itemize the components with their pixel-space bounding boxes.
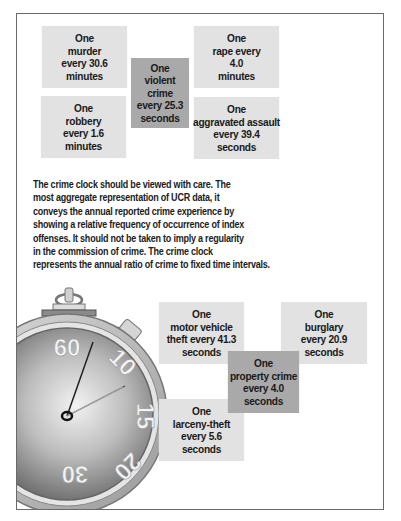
- murder-line-1: One: [75, 32, 94, 45]
- larceny-line-2: larceny-theft: [173, 418, 230, 431]
- robbery-line-2: robbery: [66, 115, 102, 128]
- stopwatch-icon: 60 10 15 20 30: [16, 286, 177, 510]
- robbery-box: One robbery every 1.6 minutes: [41, 96, 126, 158]
- violent-line-4: every 25.3: [137, 99, 183, 112]
- property-line-4: seconds: [244, 395, 283, 408]
- svg-text:60: 60: [54, 334, 81, 361]
- property-crime-box: One property crime every 4.0 seconds: [228, 351, 299, 413]
- desc-line-5: offenses. It should not be taken to impl…: [33, 232, 321, 245]
- robbery-line-4: minutes: [65, 140, 102, 153]
- larceny-line-4: seconds: [182, 443, 221, 456]
- property-line-3: every 4.0: [243, 382, 284, 395]
- violent-line-2: violent: [145, 74, 176, 87]
- property-line-2: property crime: [230, 370, 297, 383]
- murder-line-4: minutes: [66, 70, 103, 83]
- crime-clock-frame: One murder every 30.6 minutes One robber…: [16, 13, 384, 510]
- murder-line-3: every 30.6: [61, 57, 107, 70]
- larceny-line-3: every 5.6: [181, 430, 222, 443]
- assault-line-2: aggravated assault: [193, 116, 280, 129]
- desc-line-3: conveys the annual reported crime experi…: [33, 205, 321, 218]
- robbery-line-3: every 1.6: [63, 127, 104, 140]
- burglary-line-3: every 20.9: [301, 333, 347, 346]
- murder-line-2: murder: [68, 45, 101, 58]
- assault-line-4: seconds: [217, 141, 256, 154]
- svg-text:15: 15: [132, 403, 159, 430]
- larceny-line-1: One: [192, 405, 211, 418]
- rape-line-4: minutes: [218, 70, 255, 83]
- burglary-line-1: One: [315, 308, 334, 321]
- murder-box: One murder every 30.6 minutes: [42, 26, 127, 88]
- mvt-line-1: One: [192, 308, 211, 321]
- assault-line-3: every 39.4: [213, 128, 259, 141]
- violent-line-3: crime: [147, 87, 173, 100]
- property-line-1: One: [254, 357, 273, 370]
- desc-line-1: The crime clock should be viewed with ca…: [33, 178, 321, 191]
- svg-text:30: 30: [62, 461, 89, 488]
- rape-line-3: 4.0: [230, 57, 243, 70]
- mvt-line-3: theft every 41.3: [167, 333, 236, 346]
- rape-box: One rape every 4.0 minutes: [194, 26, 279, 88]
- desc-line-7: represents the annual ratio of crime to …: [33, 258, 321, 271]
- violent-crime-box: One violent crime every 25.3 seconds: [131, 58, 189, 128]
- robbery-line-1: One: [74, 102, 93, 115]
- rape-line-2: rape every: [212, 45, 260, 58]
- violent-line-1: One: [151, 62, 170, 75]
- rape-line-1: One: [227, 32, 246, 45]
- crime-clock-description: The crime clock should be viewed with ca…: [33, 178, 321, 272]
- aggravated-assault-box: One aggravated assault every 39.4 second…: [194, 97, 279, 159]
- violent-line-5: seconds: [140, 112, 179, 125]
- desc-line-4: showing a relative frequency of occurren…: [33, 218, 321, 231]
- desc-line-2: most aggregate representation of UCR dat…: [33, 191, 321, 204]
- assault-line-1: One: [227, 103, 246, 116]
- mvt-line-4: seconds: [182, 346, 221, 359]
- burglary-line-4: seconds: [304, 346, 343, 359]
- burglary-line-2: burglary: [305, 321, 343, 334]
- desc-line-6: in the commission of crime. The crime cl…: [33, 245, 321, 258]
- mvt-line-2: motor vehicle: [170, 321, 232, 334]
